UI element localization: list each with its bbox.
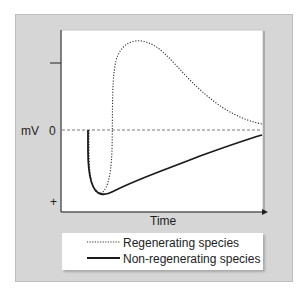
legend-swatch-solid [87,256,121,260]
legend-label-non-regenerating: Non-regenerating species [123,252,260,266]
x-axis-label: Time [150,214,176,228]
legend-swatch-dotted [87,240,121,244]
y-tick-zero-label: 0 [49,124,56,138]
y-axis-unit-label: mV [21,124,39,138]
plot-area [61,30,263,212]
y-tick-plus-label: + [50,195,57,209]
legend-label-regenerating: Regenerating species [123,236,239,250]
legend: Regenerating species Non-regenerating sp… [62,233,263,270]
